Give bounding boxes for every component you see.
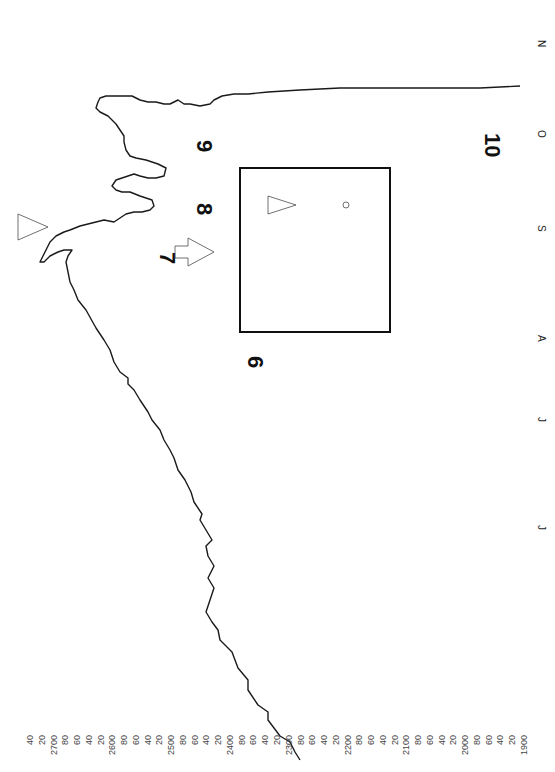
price-tick-label: 20 — [507, 735, 517, 745]
price-tick-label: 40 — [495, 735, 505, 745]
inset-box — [240, 168, 390, 332]
price-tick-label: 60 — [248, 735, 258, 745]
price-tick-label: 40 — [319, 735, 329, 745]
price-tick-label: 40 — [143, 735, 153, 745]
month-label: J — [536, 525, 547, 530]
wave-label-9: 9 — [192, 140, 217, 152]
wave-label-10: 10 — [480, 133, 505, 157]
price-tick-label: 20 — [272, 735, 282, 745]
price-tick-label: 2000 — [460, 735, 470, 755]
month-label: S — [536, 225, 547, 232]
inset-panel — [240, 168, 390, 332]
price-tick-label: 60 — [425, 735, 435, 745]
price-tick-label: 2700 — [49, 735, 59, 755]
price-tick-label: 2600 — [107, 735, 117, 755]
price-tick-label: 20 — [96, 735, 106, 745]
price-tick-label: 20 — [448, 735, 458, 745]
price-tick-label: 60 — [72, 735, 82, 745]
triangle-marker-icon — [18, 214, 48, 240]
price-tick-label: 20 — [213, 735, 223, 745]
month-axis: JJASON — [536, 40, 547, 530]
price-tick-label: 1900 — [519, 735, 529, 755]
price-tick-label: 20 — [390, 735, 400, 745]
price-axis: 4020270080604020260080604020250080604020… — [25, 735, 529, 755]
wave-label-6: 6 — [243, 356, 268, 368]
inset-circle-marker — [343, 202, 349, 208]
price-tick-label: 60 — [190, 735, 200, 745]
price-tick-label: 80 — [119, 735, 129, 745]
price-tick-label: 40 — [25, 735, 35, 745]
inset-triangle-icon — [268, 196, 296, 214]
month-label: A — [536, 335, 547, 342]
price-tick-label: 20 — [331, 735, 341, 745]
price-tick-label: 80 — [296, 735, 306, 745]
price-trace — [40, 86, 520, 760]
price-tick-label: 2100 — [401, 735, 411, 755]
price-tick-label: 60 — [307, 735, 317, 745]
price-tick-label: 80 — [60, 735, 70, 745]
main-price-line — [40, 86, 520, 760]
price-tick-label: 40 — [260, 735, 270, 745]
month-label: N — [536, 40, 547, 47]
price-tick-label: 80 — [354, 735, 364, 745]
price-tick-label: 80 — [413, 735, 423, 745]
price-tick-label: 40 — [378, 735, 388, 745]
month-label: O — [536, 130, 547, 138]
price-tick-label: 80 — [237, 735, 247, 745]
price-tick-label: 40 — [437, 735, 447, 745]
price-tick-label: 2500 — [166, 735, 176, 755]
price-tick-label: 60 — [484, 735, 494, 745]
price-tick-label: 40 — [84, 735, 94, 745]
month-label: J — [536, 417, 547, 422]
rotated-price-chart: 6 7 8 9 10 JJASON 4020270080604020260080… — [0, 0, 555, 772]
price-tick-label: 20 — [154, 735, 164, 745]
wave-label-8: 8 — [192, 203, 217, 215]
price-tick-label: 80 — [472, 735, 482, 745]
price-tick-label: 60 — [131, 735, 141, 745]
price-tick-label: 60 — [366, 735, 376, 745]
price-tick-label: 20 — [37, 735, 47, 745]
price-tick-label: 80 — [178, 735, 188, 745]
price-tick-label: 2200 — [343, 735, 353, 755]
price-tick-label: 40 — [201, 735, 211, 745]
price-tick-label: 2400 — [225, 735, 235, 755]
price-tick-label: 2300 — [284, 735, 294, 755]
